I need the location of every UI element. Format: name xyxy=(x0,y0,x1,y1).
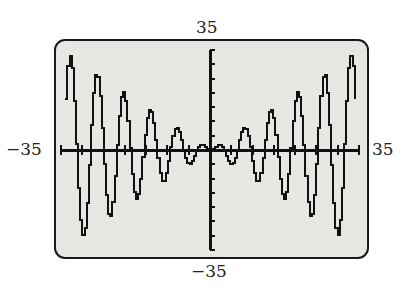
graph-plot xyxy=(0,0,403,291)
